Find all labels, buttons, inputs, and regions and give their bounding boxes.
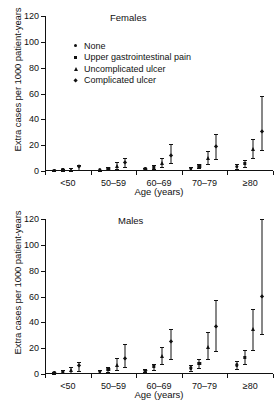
x-axis-tick (45, 374, 46, 378)
error-bar-cap (115, 358, 119, 359)
y-axis-tick-label: 120 (24, 215, 39, 224)
x-axis-tick (182, 374, 183, 378)
x-axis-title-females: Age (years) (45, 186, 273, 197)
y-axis-tick-label: 0 (34, 370, 39, 379)
panel-males: Extra cases per 1000 patient-years Males… (0, 203, 280, 406)
error-bar-cap (251, 350, 255, 351)
plot-area-females: 020406080100120<5050–5960–6970–79≥80 (45, 16, 273, 171)
error-bar (261, 219, 262, 334)
error-bar-cap (206, 332, 210, 333)
x-axis-tick (136, 374, 137, 378)
square-marker (61, 168, 64, 171)
y-axis-line (45, 219, 46, 374)
y-axis-tick (41, 42, 45, 43)
plot-area-males: 020406080100120<5050–5960–6970–79≥80 (45, 219, 273, 374)
error-bar-cap (189, 170, 193, 171)
y-axis-tick (41, 68, 45, 69)
x-axis-tick (273, 171, 274, 175)
y-axis-tick-label: 20 (29, 141, 39, 150)
square-marker (152, 165, 155, 168)
x-axis-tick (227, 171, 228, 175)
y-axis-tick-label: 0 (34, 167, 39, 176)
error-bar-cap (160, 364, 164, 365)
y-axis-tick-label: 80 (29, 266, 39, 275)
error-bar-cap (106, 372, 110, 373)
error-bar-cap (115, 169, 119, 170)
x-axis-tick (136, 171, 137, 175)
error-bar-cap (123, 344, 127, 345)
y-axis-tick-label: 60 (29, 292, 39, 301)
triangle-marker (69, 368, 73, 372)
error-bar-cap (143, 170, 147, 171)
error-bar-cap (243, 364, 247, 365)
y-axis-tick (41, 297, 45, 298)
error-bar-cap (115, 370, 119, 371)
square-marker (106, 167, 109, 170)
error-bar-cap (197, 368, 201, 369)
error-bar-cap (251, 158, 255, 159)
error-bar-cap (77, 371, 81, 372)
diamond-marker (260, 294, 265, 299)
error-bar-cap (169, 329, 173, 330)
square-marker (152, 365, 155, 368)
triangle-marker (160, 161, 164, 165)
error-bar (261, 96, 262, 150)
square-marker (243, 162, 246, 165)
error-bar-cap (214, 300, 218, 301)
error-bar-cap (169, 163, 173, 164)
error-bar-cap (206, 164, 210, 165)
y-axis-tick-label: 60 (29, 89, 39, 98)
y-axis-tick-label: 80 (29, 63, 39, 72)
error-bar-cap (69, 373, 73, 374)
y-axis-tick (41, 219, 45, 220)
y-axis-tick (41, 271, 45, 272)
triangle-marker (115, 363, 119, 367)
error-bar-cap (106, 170, 110, 171)
error-bar-cap (61, 373, 65, 374)
error-bar-cap (260, 96, 264, 97)
square-marker (243, 356, 246, 359)
figure-two-panel-scatter: Extra cases per 1000 patient-years Femal… (0, 0, 280, 406)
error-bar-cap (143, 372, 147, 373)
x-axis-tick (273, 374, 274, 378)
y-axis-title-males: Extra cases per 1000 patient-years (12, 208, 23, 358)
x-axis-title-males: Age (years) (45, 389, 273, 400)
x-axis-tick (227, 374, 228, 378)
error-bar-cap (260, 334, 264, 335)
error-bar-cap (243, 350, 247, 351)
error-bar-cap (235, 369, 239, 370)
circle-marker (235, 165, 238, 168)
error-bar-cap (189, 371, 193, 372)
error-bar-cap (251, 309, 255, 310)
diamond-marker (214, 145, 219, 150)
y-axis-tick (41, 119, 45, 120)
triangle-marker (206, 156, 210, 160)
triangle-marker (251, 327, 255, 331)
error-bar-cap (152, 169, 156, 170)
y-axis-tick-label: 40 (29, 115, 39, 124)
diamond-marker (77, 364, 82, 369)
panel-females: Extra cases per 1000 patient-years Femal… (0, 0, 280, 203)
y-axis-tick (41, 94, 45, 95)
error-bar-cap (214, 134, 218, 135)
error-bar-cap (235, 169, 239, 170)
error-bar-cap (152, 370, 156, 371)
y-axis-tick (41, 16, 45, 17)
y-axis-tick-label: 100 (24, 37, 39, 46)
x-axis-tick (91, 171, 92, 175)
error-bar-cap (251, 139, 255, 140)
x-axis-line (45, 373, 273, 374)
x-axis-tick (182, 171, 183, 175)
y-axis-tick (41, 322, 45, 323)
error-bar-cap (160, 158, 164, 159)
triangle-marker (160, 354, 164, 358)
error-bar-cap (123, 158, 127, 159)
error-bar-cap (77, 170, 81, 171)
y-axis-tick-label: 40 (29, 318, 39, 327)
x-axis-tick (91, 374, 92, 378)
y-axis-line (45, 16, 46, 171)
error-bar-cap (115, 162, 119, 163)
diamond-marker (123, 160, 128, 165)
y-axis-tick (41, 245, 45, 246)
diamond-marker (123, 356, 128, 361)
